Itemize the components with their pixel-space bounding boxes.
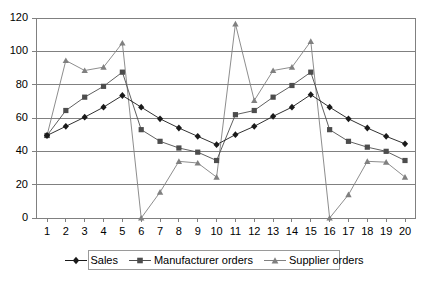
series-layer — [44, 21, 408, 221]
legend-label-supplier-orders: Supplier orders — [289, 254, 364, 266]
y-tick-label: 40 — [0, 145, 28, 156]
series-supplier-orders — [44, 21, 408, 221]
y-tick-label: 80 — [0, 79, 28, 90]
y-tick-label: 20 — [0, 179, 28, 190]
legend-marker-diamond-icon — [64, 255, 88, 266]
gridlines — [36, 18, 416, 218]
y-tick-marks — [32, 18, 36, 218]
y-tick-label: 0 — [0, 212, 28, 223]
legend-marker-square-icon — [128, 255, 152, 266]
chart-legend: Sales Manufacturer orders Supplier order… — [88, 250, 340, 270]
plot-area — [0, 0, 427, 281]
y-tick-label: 60 — [0, 112, 28, 123]
legend-item-sales: Sales — [64, 254, 118, 266]
legend-label-sales: Sales — [90, 254, 118, 266]
x-tick-marks — [47, 218, 405, 222]
legend-label-manufacturer-orders: Manufacturer orders — [154, 254, 253, 266]
series-manufacturer-orders — [44, 70, 407, 164]
legend-marker-triangle-icon — [263, 255, 287, 266]
x-tick-label: 20 — [393, 226, 417, 237]
legend-item-supplier-orders: Supplier orders — [263, 254, 364, 266]
y-tick-label: 120 — [0, 12, 28, 23]
legend-item-manufacturer-orders: Manufacturer orders — [128, 254, 253, 266]
line-chart: 020406080100120 123456789101112131415161… — [0, 0, 427, 281]
y-tick-label: 100 — [0, 45, 28, 56]
